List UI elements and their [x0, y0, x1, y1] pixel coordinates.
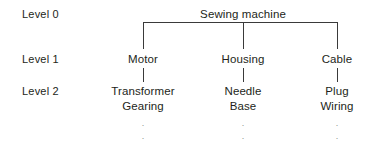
node-wiring: Wiring — [320, 99, 353, 113]
node-housing: Housing — [222, 52, 265, 66]
node-sewing-machine: Sewing machine — [200, 7, 286, 21]
node-transformer: Transformer — [111, 84, 174, 98]
continuation-dot-housing-1: . — [242, 118, 245, 129]
node-gearing: Gearing — [122, 99, 164, 113]
node-plug: Plug — [325, 84, 348, 98]
node-needle: Needle — [224, 84, 261, 98]
level-1-label: Level 1 — [22, 53, 59, 66]
node-base: Base — [230, 99, 257, 113]
continuation-dot-motor-2: . — [142, 131, 145, 142]
connector-bus-horizontal — [143, 22, 338, 23]
continuation-dot-cable-1: . — [336, 118, 339, 129]
level-2-label: Level 2 — [22, 85, 59, 98]
continuation-dot-motor-1: . — [142, 118, 145, 129]
connector-root-to-cable — [337, 22, 338, 49]
node-cable: Cable — [322, 52, 353, 66]
connector-housing-to-needle — [243, 68, 244, 82]
node-motor: Motor — [128, 52, 158, 66]
connector-root-to-housing — [243, 22, 244, 49]
connector-root-to-motor — [143, 22, 144, 49]
continuation-dot-cable-2: . — [336, 131, 339, 142]
continuation-dot-housing-2: . — [242, 131, 245, 142]
connector-cable-to-plug — [337, 68, 338, 82]
level-0-label: Level 0 — [22, 8, 59, 21]
hierarchy-diagram: Level 0 Level 1 Level 2 Sewing machine M… — [0, 0, 366, 158]
connector-motor-to-transformer — [143, 68, 144, 82]
